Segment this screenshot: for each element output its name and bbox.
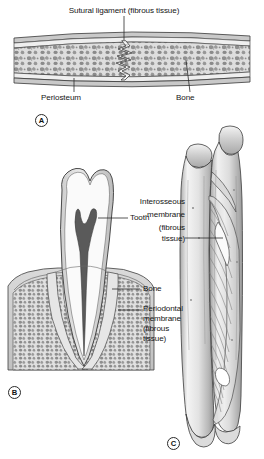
label-periodontal-line4: tissue)	[143, 334, 166, 344]
label-interosseous-line2: membrane	[120, 210, 185, 220]
label-periodontal-line3: (fibrous	[143, 324, 169, 334]
panel-badge-b: B	[8, 386, 21, 399]
label-interosseous-line3: (fibrous	[120, 223, 185, 233]
label-interosseous-line4: tissue)	[120, 234, 185, 244]
label-sutural-ligament: Sutural ligament (fibrous tissue)	[34, 6, 214, 16]
panel-a-suture-diagram	[14, 16, 250, 92]
panel-c-radius-ulna-diagram	[180, 126, 243, 447]
label-periodontal-line2: membrane	[143, 314, 181, 324]
label-interosseous-line1: Interosseous	[120, 197, 185, 207]
label-periodontal-line1: Periodontal	[143, 304, 183, 314]
label-bone-b: Bone	[143, 284, 162, 294]
label-bone-a: Bone	[176, 93, 195, 103]
label-periosteum: Periosteum	[41, 93, 81, 103]
anatomy-figure: Sutural ligament (fibrous tissue) Perios…	[0, 0, 264, 459]
panel-badge-c: C	[167, 437, 180, 450]
panel-badge-a: A	[35, 114, 48, 127]
